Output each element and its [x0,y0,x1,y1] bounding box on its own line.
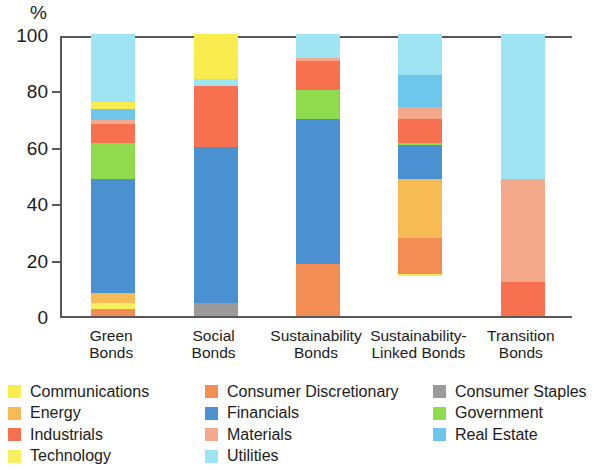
bar-sustainability-bonds [296,34,340,316]
bar-segment-government [91,143,135,180]
legend-label: Technology [30,448,111,464]
legend-swatch-icon [205,428,218,441]
y-axis-unit-label: % [30,2,47,24]
legend-item-industrials[interactable]: Industrials [8,424,149,446]
y-axis-tick-label: 0 [2,308,48,327]
bar-segment-industrials [296,61,340,91]
legend-swatch-icon [205,407,218,420]
y-axis-tick-label: 60 [2,139,48,158]
legend-label: Industrials [30,427,103,443]
legend-label: Energy [30,405,81,421]
legend-item-energy[interactable]: Energy [8,403,149,425]
legend-item-consumer-staples[interactable]: Consumer Staples [433,381,587,403]
legend-swatch-icon [8,428,21,441]
bar-segment-consumer-staples [194,303,238,316]
bar-segment-energy [91,293,135,303]
plot-area [60,36,572,318]
legend-item-consumer-discretionary[interactable]: Consumer Discretionary [205,381,399,403]
y-axis-tick-mark [52,261,60,263]
bar-segment-financials [194,147,238,304]
bar-segment-financials [398,145,442,179]
bar-segment-consumer-discretionary [91,309,135,316]
y-axis-tick-label: 20 [2,252,48,271]
legend-item-utilities[interactable]: Utilities [205,446,399,468]
legend-label: Financials [227,405,299,421]
legend-item-communications[interactable]: Communications [8,381,149,403]
bar-segment-consumer-discretionary [398,238,442,273]
bar-sustainability-linked-bonds [398,34,442,316]
legend-column: Consumer StaplesGovernmentReal Estate [433,381,587,446]
y-axis-tick-label: 40 [2,195,48,214]
legend-swatch-icon [205,385,218,398]
bar-segment-real-estate [398,75,442,107]
legend-label: Government [455,405,543,421]
bar-segment-utilities [194,79,238,86]
legend-label: Consumer Staples [455,384,587,400]
legend-swatch-icon [8,450,21,463]
bar-segment-industrials [91,124,135,142]
bar-segment-energy [398,179,442,238]
bar-social-bonds [194,34,238,316]
legend-item-materials[interactable]: Materials [205,424,399,446]
legend-item-government[interactable]: Government [433,403,587,425]
legend-item-real-estate[interactable]: Real Estate [433,424,587,446]
bar-segment-utilities [398,34,442,75]
y-axis-tick-mark [52,204,60,206]
bar-segment-industrials [501,282,545,316]
y-axis-tick-mark [52,148,60,150]
bar-segment-real-estate [91,109,135,120]
legend-label: Utilities [227,448,279,464]
chart-legend: CommunicationsEnergyIndustrialsTechnolog… [8,381,594,467]
bar-segment-industrials [194,86,238,147]
bar-segment-financials [296,119,340,264]
bar-segment-utilities [501,34,545,179]
bar-segment-consumer-discretionary [296,264,340,316]
bar-segment-government [296,90,340,118]
legend-label: Real Estate [455,427,538,443]
bar-segment-materials [398,107,442,118]
bar-segment-utilities [91,34,135,102]
legend-column: CommunicationsEnergyIndustrialsTechnolog… [8,381,149,467]
legend-label: Communications [30,384,149,400]
bar-green-bonds [91,34,135,316]
bar-segment-communications [194,34,238,79]
category-label-line1: Transition [457,327,585,344]
legend-swatch-icon [433,385,446,398]
legend-swatch-icon [8,385,21,398]
y-axis-tick-label: 100 [2,26,48,45]
legend-label: Consumer Discretionary [227,384,399,400]
y-axis-tick-label: 80 [2,82,48,101]
x-axis-category-label: TransitionBonds [457,327,585,361]
bar-segment-industrials [398,119,442,143]
legend-swatch-icon [433,428,446,441]
chart-root: % 100806040200 GreenBondsSocialBondsSust… [0,0,594,470]
legend-item-financials[interactable]: Financials [205,403,399,425]
y-axis-tick-mark [52,91,60,93]
legend-swatch-icon [433,407,446,420]
legend-column: Consumer DiscretionaryFinancialsMaterial… [205,381,399,467]
legend-swatch-icon [205,450,218,463]
bar-segment-communications [91,102,135,109]
bar-transition-bonds [501,34,545,316]
bar-segment-utilities [296,34,340,58]
legend-item-technology[interactable]: Technology [8,446,149,468]
legend-label: Materials [227,427,292,443]
category-label-line2: Bonds [457,344,585,361]
bar-segment-financials [91,179,135,293]
bar-segment-technology [398,274,442,277]
bar-segment-materials [501,179,545,282]
legend-swatch-icon [8,407,21,420]
